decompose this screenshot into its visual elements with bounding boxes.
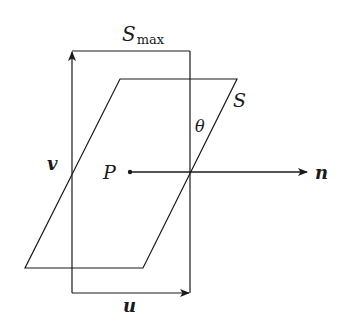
plane-projection-diagram: Smax S θ v P n u: [0, 0, 346, 335]
label-s-max: Smax: [122, 22, 165, 47]
label-theta: θ: [195, 117, 205, 136]
point-p-dot: [128, 170, 132, 174]
label-n: n: [315, 162, 328, 183]
label-s: S: [233, 89, 246, 111]
label-v: v: [47, 153, 58, 174]
label-p: P: [102, 161, 117, 183]
label-u: u: [123, 295, 136, 316]
